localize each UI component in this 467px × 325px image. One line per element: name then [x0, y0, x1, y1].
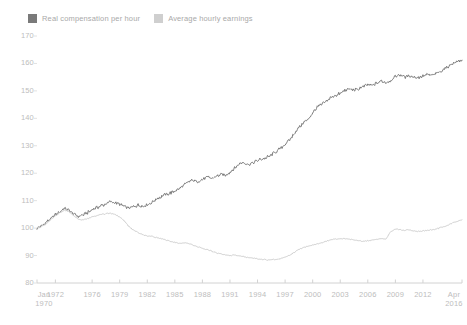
x-axis-tick-labels: Jan1970197219761979198219851988199119941… [0, 0, 467, 325]
chart-container: Real compensation per hour Average hourl… [0, 0, 467, 325]
x-axis-tick-label: 1997 [276, 290, 294, 299]
x-axis-tick-label: 1985 [166, 290, 184, 299]
x-axis-tick-label: 2003 [331, 290, 349, 299]
x-axis-tick-label: 2012 [414, 290, 432, 299]
x-axis-tick-label: 2009 [387, 290, 405, 299]
x-axis-tick-label: 1972 [47, 290, 65, 299]
x-axis-tick-label: 1991 [221, 290, 239, 299]
x-axis-tick-label: 2006 [359, 290, 377, 299]
x-axis-tick-label: 1979 [111, 290, 129, 299]
x-axis-tick-label: 1976 [83, 290, 101, 299]
x-axis-tick-label: 1994 [249, 290, 267, 299]
x-axis-tick-label: Apr2016 [445, 290, 463, 308]
x-axis-tick-label: 1988 [194, 290, 212, 299]
plot-area: 1701601501401301201101009080 Jan19701972… [0, 0, 467, 325]
x-axis-tick-label: 2000 [304, 290, 322, 299]
x-axis-tick-label: 1982 [139, 290, 157, 299]
